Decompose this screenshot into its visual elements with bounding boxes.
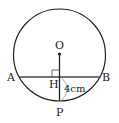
center-point-o [58, 52, 61, 55]
label-length: 4cm [64, 83, 86, 94]
right-angle-mark [52, 70, 60, 77]
label-a: A [6, 71, 16, 84]
label-h: H [49, 78, 59, 91]
label-b: B [102, 71, 110, 84]
label-p: P [56, 106, 64, 119]
circle-diagram: O A B H P 4cm [0, 0, 119, 123]
label-o: O [55, 39, 64, 52]
